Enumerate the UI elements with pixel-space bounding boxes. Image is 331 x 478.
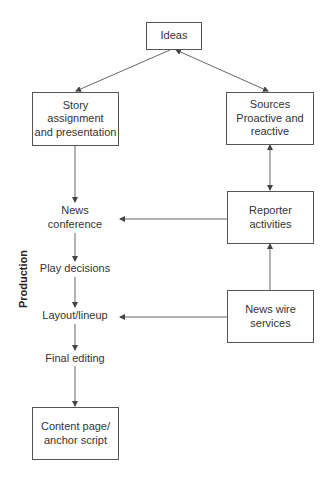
- node-content-label: Content page/ anchor script: [41, 420, 110, 447]
- node-reporter-label: Reporter activities: [249, 204, 292, 231]
- step-news-conference: News conference: [25, 204, 125, 231]
- node-news-wire: News wire services: [227, 290, 314, 343]
- node-story-label: Story assignment and presentation: [35, 99, 117, 140]
- step-layout-lineup: Layout/lineup: [15, 309, 135, 323]
- node-sources-label: Sources Proactive and reactive: [236, 98, 303, 139]
- node-content-page: Content page/ anchor script: [32, 407, 119, 460]
- step-play-decisions: Play decisions: [15, 262, 135, 276]
- node-sources: Sources Proactive and reactive: [226, 92, 314, 145]
- step-final-editing: Final editing: [15, 352, 135, 366]
- edge-ideas-story: [76, 50, 170, 91]
- node-story-assignment: Story assignment and presentation: [32, 92, 119, 146]
- production-side-label: Production: [17, 247, 29, 311]
- edge-ideas-sources: [176, 50, 268, 91]
- node-ideas: Ideas: [146, 22, 202, 50]
- node-newswire-label: News wire services: [245, 303, 296, 330]
- node-reporter-activities: Reporter activities: [227, 191, 314, 244]
- node-ideas-label: Ideas: [161, 29, 188, 43]
